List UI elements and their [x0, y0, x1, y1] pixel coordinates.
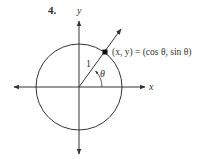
- y-axis-label: y: [76, 5, 82, 16]
- radius-label: 1: [86, 58, 91, 69]
- point-marker: [103, 50, 108, 55]
- angle-label: θ: [100, 68, 105, 79]
- unit-circle-diagram: 4. y x 1 θ (x, y) = (cos θ, sin θ): [0, 0, 213, 159]
- problem-number: 4.: [48, 4, 57, 16]
- x-axis-label: x: [148, 81, 154, 92]
- point-label: (x, y) = (cos θ, sin θ): [112, 47, 191, 58]
